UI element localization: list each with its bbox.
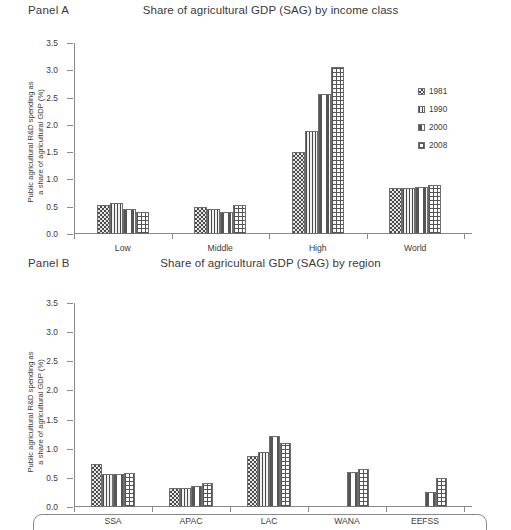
x-axis-category-label: High	[309, 243, 327, 253]
legend-item-2008[interactable]: 2008	[418, 136, 447, 154]
bar-world-1990	[402, 188, 415, 234]
bar-world-1981	[389, 188, 402, 234]
panel-b-axes: 3.53.02.52.01.51.00.50.0 SSAAPACLACWANAE…	[74, 303, 464, 507]
bar-middle-2008	[233, 205, 246, 234]
panel-b-title: Share of agricultural GDP (SAG) by regio…	[0, 257, 511, 269]
y-axis-line	[74, 303, 75, 507]
x-axis-tick	[172, 234, 173, 239]
legend-item-1990[interactable]: 1990	[418, 100, 447, 118]
x-axis-tick	[230, 507, 231, 512]
panel-a: Panel A Share of agricultural GDP (SAG) …	[0, 0, 511, 253]
y-axis-tick-label: 2.5	[46, 356, 58, 366]
y-axis-tick-label: 2.0	[46, 385, 58, 395]
bar-eefss-2008	[436, 478, 447, 507]
legend-swatch-1990-icon	[418, 106, 425, 113]
bar-lac-1981	[247, 456, 258, 507]
panel-b-plot: Public agricultural R&D spending as a sh…	[0, 279, 511, 530]
y-axis-tick: 1.5	[67, 152, 73, 153]
y-axis-tick-label: 3.5	[46, 298, 58, 308]
bar-lac-1990	[258, 452, 269, 507]
y-axis-tick-label: 3.5	[46, 38, 58, 48]
bar-lac-2008	[280, 443, 291, 507]
bar-high-2000	[318, 94, 331, 234]
x-axis-category-label: World	[404, 243, 426, 253]
y-axis-tick-label: 2.5	[46, 93, 58, 103]
y-axis-tick-label: 2.0	[46, 120, 58, 130]
panel-a-axes: 3.53.02.52.01.51.00.50.0 LowMiddleHighWo…	[74, 43, 464, 234]
panel-b-y-axis-label: Public agricultural R&D spending as a sh…	[26, 323, 45, 501]
legend-swatch-2008-icon	[418, 142, 425, 149]
bar-wana-2008	[358, 469, 369, 507]
bar-ssa-2000	[113, 474, 124, 507]
panel-b: Panel B Share of agricultural GDP (SAG) …	[0, 253, 511, 530]
x-axis-category-label: Middle	[208, 243, 233, 253]
legend-swatch-2000-icon	[418, 124, 425, 131]
bar-low-2008	[136, 212, 149, 234]
bar-apac-1990	[180, 488, 191, 507]
legend-item-2000[interactable]: 2000	[418, 118, 447, 136]
y-axis-tick: 3.5	[67, 303, 73, 304]
panel-a-legend: 1981199020002008	[418, 82, 447, 154]
y-axis-tick: 0.0	[67, 234, 73, 235]
y-axis-tick-label: 1.5	[46, 415, 58, 425]
legend-label: 2008	[429, 141, 447, 150]
panel-a-plot: Public agricultural R&D spending as a sh…	[0, 26, 511, 253]
figure-note-box	[33, 514, 487, 530]
x-axis-tick	[464, 234, 465, 239]
bar-wana-2000	[347, 472, 358, 507]
bar-eefss-2000	[425, 492, 436, 507]
panel-b-header: Panel B Share of agricultural GDP (SAG) …	[0, 253, 511, 279]
bar-ssa-2008	[124, 473, 135, 507]
x-axis-tick	[386, 507, 387, 512]
x-axis-tick	[269, 234, 270, 239]
y-axis-tick: 0.0	[67, 507, 73, 508]
y-axis-label-line1: Public agricultural R&D spending as	[26, 81, 35, 202]
y-axis-tick: 2.0	[67, 390, 73, 391]
panel-a-header: Panel A Share of agricultural GDP (SAG) …	[0, 0, 511, 26]
y-axis-tick: 1.5	[67, 420, 73, 421]
legend-label: 2000	[429, 123, 447, 132]
bar-low-2000	[123, 209, 136, 234]
bar-high-1981	[292, 152, 305, 234]
bar-apac-2000	[191, 486, 202, 507]
x-axis-tick	[367, 234, 368, 239]
x-axis-tick	[464, 507, 465, 512]
y-axis-tick: 1.0	[67, 179, 73, 180]
y-axis-tick-label: 1.0	[46, 174, 58, 184]
panel-a-y-axis-label: Public agricultural R&D spending as a sh…	[26, 53, 45, 231]
y-axis-tick: 0.5	[67, 207, 73, 208]
legend-swatch-1981-icon	[418, 88, 425, 95]
bar-lac-2000	[269, 436, 280, 507]
bar-world-2008	[428, 185, 441, 234]
y-axis-tick-label: 1.0	[46, 444, 58, 454]
y-axis-label-line2: a share of agricultural GDP (%)	[36, 89, 45, 194]
bar-world-2000	[415, 187, 428, 234]
bar-ssa-1990	[102, 474, 113, 507]
y-axis-tick: 3.0	[67, 70, 73, 71]
bar-middle-2000	[220, 212, 233, 234]
y-axis-tick: 2.5	[67, 361, 73, 362]
y-axis-tick-label: 3.0	[46, 65, 58, 75]
bar-high-1990	[305, 131, 318, 234]
y-axis-tick-label: 3.0	[46, 327, 58, 337]
y-axis-tick: 3.0	[67, 332, 73, 333]
y-axis-tick-label: 0.0	[46, 229, 58, 239]
bar-high-2008	[331, 67, 344, 234]
x-axis-tick	[74, 234, 75, 239]
panel-a-title: Share of agricultural GDP (SAG) by incom…	[0, 4, 511, 16]
bar-middle-1981	[194, 207, 207, 234]
x-axis-tick	[152, 507, 153, 512]
y-axis-label-line2: a share of agricultural GDP (%)	[36, 359, 45, 464]
x-axis-category-label: Low	[115, 243, 131, 253]
y-axis-tick-label: 0.0	[46, 502, 58, 512]
legend-item-1981[interactable]: 1981	[418, 82, 447, 100]
legend-label: 1981	[429, 87, 447, 96]
bar-apac-2008	[202, 483, 213, 507]
y-axis-tick: 3.5	[67, 43, 73, 44]
y-axis-line	[74, 43, 75, 234]
y-axis-tick: 1.0	[67, 449, 73, 450]
y-axis-tick-label: 0.5	[46, 473, 58, 483]
y-axis-tick: 0.5	[67, 478, 73, 479]
legend-label: 1990	[429, 105, 447, 114]
bar-apac-1981	[169, 488, 180, 507]
